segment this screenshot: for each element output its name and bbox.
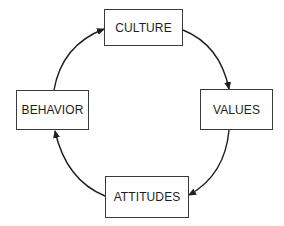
arrow-attitudes-to-behavior: [55, 131, 105, 196]
node-attitudes: ATTITUDES: [105, 176, 189, 218]
node-culture-label: CULTURE: [115, 21, 171, 35]
node-values-label: VALUES: [213, 103, 260, 117]
node-behavior: BEHAVIOR: [16, 90, 89, 130]
node-culture: CULTURE: [104, 9, 183, 46]
node-behavior-label: BEHAVIOR: [22, 103, 84, 117]
node-attitudes-label: ATTITUDES: [114, 190, 181, 204]
arrow-culture-to-values: [183, 30, 229, 89]
arrow-values-to-attitudes: [189, 130, 229, 195]
node-values: VALUES: [200, 89, 273, 130]
arrow-behavior-to-culture: [54, 29, 104, 90]
